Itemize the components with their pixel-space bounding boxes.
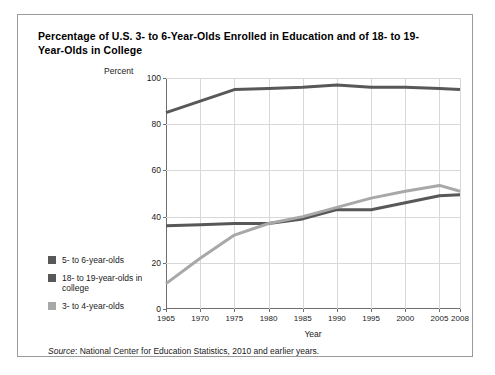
figure-panel: Percentage of U.S. 3- to 6-Year-Olds Enr… [17, 14, 473, 357]
legend-label: 3- to 4-year-olds [62, 301, 124, 312]
y-tick-label: 40 [152, 212, 161, 222]
x-tick-mark [337, 309, 338, 312]
x-tick-mark [405, 309, 406, 312]
gridline-vertical [460, 78, 461, 309]
x-tick-label: 1995 [362, 314, 380, 323]
y-tick-label: 80 [152, 119, 161, 129]
legend-label: 5- to 6-year-olds [62, 255, 124, 266]
series-line [166, 85, 460, 113]
x-tick-mark [200, 309, 201, 312]
legend-swatch [48, 256, 56, 264]
x-tick-label: 1970 [191, 314, 209, 323]
legend-swatch [48, 302, 56, 310]
x-tick-mark [166, 309, 167, 312]
legend-swatch [48, 274, 56, 282]
y-axis-title: Percent [104, 66, 133, 76]
x-tick-mark [439, 309, 440, 312]
source-label: Source [48, 346, 75, 356]
x-tick-label: 2008 [451, 314, 469, 323]
legend-item: 3- to 4-year-olds [48, 301, 166, 312]
x-tick-label: 1985 [294, 314, 312, 323]
source-text: National Center for Education Statistics… [80, 346, 320, 356]
plot-area: 020406080100 196519701975198019851990199… [166, 78, 460, 309]
series-line [166, 195, 460, 226]
x-tick-mark [303, 309, 304, 312]
x-tick-mark [371, 309, 372, 312]
x-tick-mark [234, 309, 235, 312]
x-tick-mark [460, 309, 461, 312]
x-tick-mark [269, 309, 270, 312]
chart-legend: 5- to 6-year-olds18- to 19-year-olds in … [48, 255, 166, 318]
x-tick-label: 1975 [225, 314, 243, 323]
x-tick-label: 1980 [260, 314, 278, 323]
x-tick-label: 1990 [328, 314, 346, 323]
y-tick-label: 60 [152, 165, 161, 175]
source-note: Source: National Center for Education St… [48, 346, 319, 356]
x-tick-label: 2000 [396, 314, 414, 323]
legend-item: 18- to 19-year-olds in college [48, 273, 166, 294]
series-lines [166, 78, 460, 309]
x-axis-title: Year [304, 329, 321, 339]
source-separator: : [75, 346, 77, 356]
y-tick-label: 100 [147, 73, 161, 83]
x-tick-label: 2005 [431, 314, 449, 323]
legend-label: 18- to 19-year-olds in college [62, 273, 166, 294]
legend-item: 5- to 6-year-olds [48, 255, 166, 266]
chart-title: Percentage of U.S. 3- to 6-Year-Olds Enr… [38, 29, 438, 57]
